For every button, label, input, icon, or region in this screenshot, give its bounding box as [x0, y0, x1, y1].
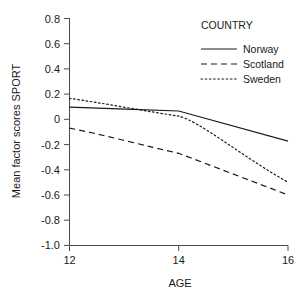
- y-tick-label: -0.2: [41, 139, 60, 151]
- chart-legend: COUNTRY Norway Scotland Sweden: [201, 19, 284, 85]
- y-tick-label: -0.8: [41, 214, 60, 226]
- x-tick-label: 14: [173, 254, 185, 266]
- y-axis-title: Mean factor scores SPORT: [10, 64, 22, 199]
- x-tick-label: 16: [282, 254, 294, 266]
- x-axis-tick-labels: 12 14 16: [63, 254, 294, 266]
- legend-label-sweden: Sweden: [243, 73, 281, 85]
- y-tick-label: -0.4: [41, 164, 60, 176]
- y-tick-label: 0.6: [45, 38, 60, 50]
- y-tick-label: 0: [54, 113, 60, 125]
- x-axis-title: AGE: [168, 277, 191, 289]
- legend-label-norway: Norway: [243, 43, 279, 55]
- y-tick-label: -0.6: [41, 189, 60, 201]
- series-line-norway: [70, 107, 289, 141]
- y-tick-label: -1.0: [41, 239, 60, 251]
- y-tick-label: 0.2: [45, 88, 60, 100]
- chart-canvas: 0.8 0.6 0.4 0.2 0 -0.2 -0.4 -0.6 -0.8 -1…: [0, 0, 307, 294]
- data-series-group: [70, 98, 289, 194]
- legend-label-scotland: Scotland: [243, 58, 284, 70]
- y-tick-label: 0.8: [45, 13, 60, 25]
- y-axis-tick-labels: 0.8 0.6 0.4 0.2 0 -0.2 -0.4 -0.6 -0.8 -1…: [41, 13, 60, 252]
- y-axis-ticks: [64, 19, 70, 246]
- y-tick-label: 0.4: [45, 63, 60, 75]
- legend-title: COUNTRY: [201, 19, 253, 31]
- x-tick-label: 12: [63, 254, 75, 266]
- line-chart-figure: 0.8 0.6 0.4 0.2 0 -0.2 -0.4 -0.6 -0.8 -1…: [0, 0, 307, 294]
- series-line-scotland: [70, 128, 289, 195]
- x-axis-ticks: [70, 246, 289, 252]
